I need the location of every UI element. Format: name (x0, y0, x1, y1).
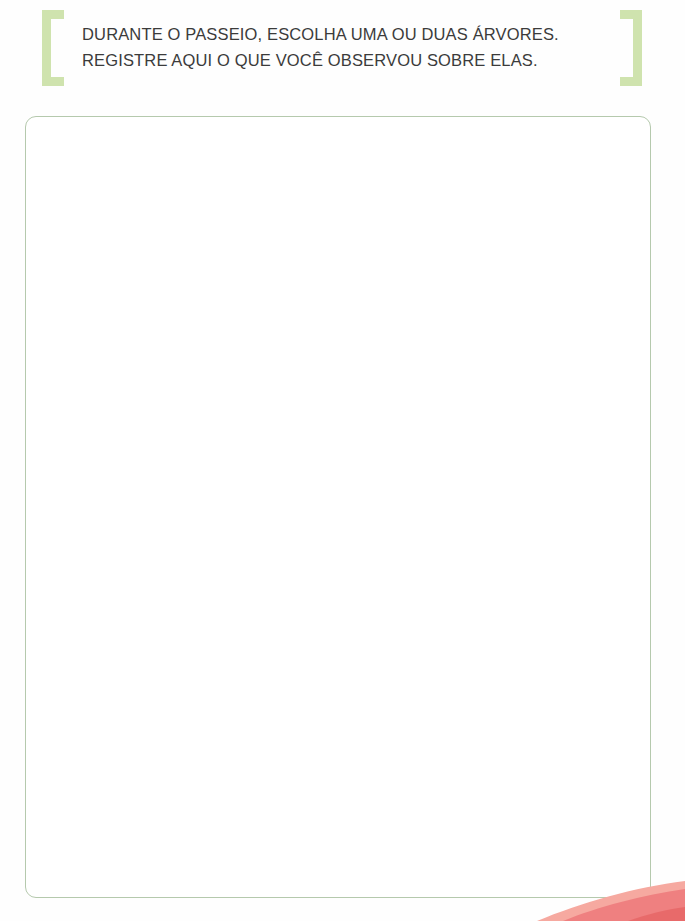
instruction-line-2: REGISTRE AQUI O QUE VOCÊ OBSERVOU SOBRE … (82, 47, 622, 73)
instruction-text: DURANTE O PASSEIO, ESCOLHA UMA OU DUAS Á… (82, 21, 622, 73)
worksheet-page: DURANTE O PASSEIO, ESCOLHA UMA OU DUAS Á… (0, 0, 685, 921)
instruction-line-1: DURANTE O PASSEIO, ESCOLHA UMA OU DUAS Á… (82, 21, 622, 47)
bracket-open-icon (42, 10, 64, 86)
bracket-close-icon (620, 10, 642, 86)
answer-response-box[interactable] (25, 116, 651, 898)
instruction-header: DURANTE O PASSEIO, ESCOLHA UMA OU DUAS Á… (0, 0, 685, 100)
